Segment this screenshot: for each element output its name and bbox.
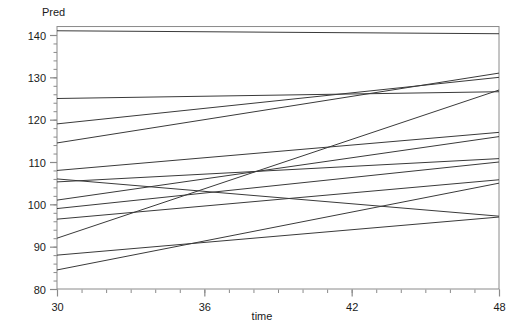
y-axis-tick-label: 120 [28, 114, 46, 126]
y-axis-tick-label: 80 [34, 284, 46, 296]
plot-canvas: 8090100110120130140 30364248 [0, 0, 524, 332]
series-line [57, 31, 499, 34]
series-line [57, 77, 499, 124]
y-axis-tick-label: 140 [28, 30, 46, 42]
x-axis-minor-ticks [58, 290, 500, 294]
series-line [57, 217, 499, 255]
series-line [57, 73, 499, 143]
y-axis-tick-label: 110 [28, 157, 46, 169]
y-axis-tick-label: 90 [34, 241, 46, 253]
series-line [57, 179, 499, 216]
series-line [57, 92, 499, 99]
y-axis-tick-label: 100 [28, 199, 46, 211]
x-axis-title: time [0, 310, 524, 322]
chart-figure: Pred 8090100110120130140 30364248 time [0, 0, 524, 332]
series-line [57, 137, 499, 201]
y-axis-major-ticks [50, 36, 57, 290]
series-line [57, 90, 499, 238]
series-line [57, 183, 499, 270]
y-axis-tick-labels: 8090100110120130140 [28, 30, 46, 296]
y-axis-tick-label: 130 [28, 72, 46, 84]
series-line [57, 159, 499, 182]
series-line [57, 132, 499, 170]
series-lines-group [57, 31, 499, 270]
